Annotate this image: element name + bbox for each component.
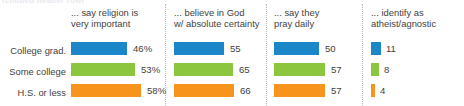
- bar-value-god-hs-or-less: 66: [240, 84, 251, 97]
- bar-pray-hs-or-less: [274, 84, 325, 97]
- column-divider-3: [362, 4, 364, 106]
- bar-value-atheist-hs-or-less: 4: [380, 84, 385, 97]
- bar-value-religion-some-college: 53%: [141, 63, 160, 76]
- bar-god-hs-or-less: [174, 84, 234, 97]
- bar-atheist-some-college: [371, 63, 379, 76]
- row-label-college-grad: College grad.: [10, 45, 66, 56]
- row-label-some-college: Some college: [9, 66, 66, 77]
- column-header-line1: ... say they: [274, 8, 362, 19]
- column-header-line2: w/ absolute certainty: [174, 19, 266, 30]
- bar-value-god-college-grad: 55: [230, 42, 241, 55]
- column-header-line1: ... identify as: [371, 8, 463, 19]
- bar-pray-college-grad: [274, 42, 319, 55]
- bar-value-atheist-college-grad: 11: [386, 42, 396, 55]
- education-religion-bar-chart: (clipped header row) ... say religion is…: [0, 0, 464, 106]
- column-header-pray-daily: ... say they pray daily: [274, 8, 362, 29]
- column-divider-2: [266, 4, 268, 106]
- column-header-atheist-agnostic: ... identify as atheist/agnostic: [371, 8, 463, 29]
- column-header-line2: very important: [71, 19, 161, 30]
- bar-god-college-grad: [174, 42, 224, 55]
- bar-value-pray-college-grad: 50: [325, 42, 336, 55]
- clipped-header-text: (clipped header row): [2, 0, 84, 3]
- bar-religion-college-grad: [71, 42, 127, 55]
- bar-religion-hs-or-less: [71, 84, 141, 97]
- column-header-line1: ... believe in God: [174, 8, 266, 19]
- column-header-line2: pray daily: [274, 19, 362, 30]
- bar-atheist-hs-or-less: [371, 84, 375, 97]
- bar-god-some-college: [174, 63, 233, 76]
- bar-value-religion-hs-or-less: 58%: [147, 84, 166, 97]
- bar-value-atheist-some-college: 8: [384, 63, 389, 76]
- column-header-line1: ... say religion is: [71, 8, 161, 19]
- column-header-religion-very-important: ... say religion is very important: [71, 8, 161, 29]
- row-label-hs-or-less: H.S. or less: [18, 87, 66, 98]
- column-header-believe-in-god: ... believe in God w/ absolute certainty: [174, 8, 266, 29]
- bar-pray-some-college: [274, 63, 325, 76]
- bar-value-religion-college-grad: 46%: [133, 42, 152, 55]
- column-header-line2: atheist/agnostic: [371, 19, 463, 30]
- bar-religion-some-college: [71, 63, 135, 76]
- bar-value-pray-some-college: 57: [331, 63, 342, 76]
- bar-atheist-college-grad: [371, 42, 381, 55]
- bar-value-god-some-college: 65: [239, 63, 250, 76]
- bar-value-pray-hs-or-less: 57: [331, 84, 342, 97]
